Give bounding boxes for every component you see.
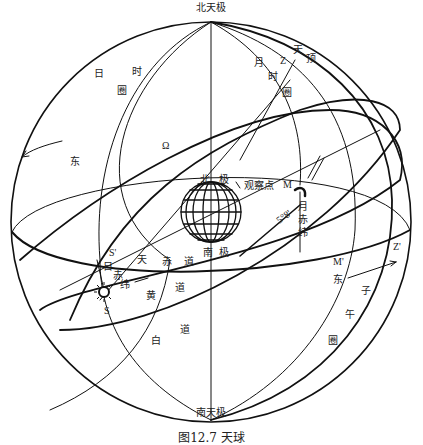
zenith-projection-label: Z' — [393, 242, 401, 252]
earth-north-pole-label-1: 北 — [200, 175, 210, 185]
sun-declination-label-1: 日 — [103, 262, 113, 272]
celestial-equator-label-2: 赤 — [162, 257, 172, 267]
earth-north-pole-label-2: 极 — [219, 175, 229, 185]
east-label-right: 东 — [333, 275, 343, 285]
figure-caption: 图12.7 天球 — [0, 428, 423, 445]
earth-south-pole-label-1: 南 — [203, 248, 213, 258]
meridian-label-2: 午 — [345, 310, 355, 320]
sun-label: S — [104, 306, 110, 316]
lunar-path — [60, 100, 400, 330]
east-label-left: 东 — [70, 157, 80, 167]
sun-hour-circle-label-3: 圈 — [117, 86, 127, 96]
moon-hour-circle-label-3: 圈 — [282, 88, 292, 98]
moon-label: M — [283, 180, 292, 190]
moon-declination-label-2: 赤 — [298, 215, 308, 225]
meridian-label-1: 子 — [361, 286, 371, 296]
east-arrow-left — [22, 141, 62, 157]
north-celestial-pole-label: 北天极 — [196, 3, 226, 13]
lunar-path-label-1: 白 — [151, 336, 161, 346]
earth-south-pole-label-2: 极 — [219, 248, 229, 258]
east-arrow-right — [348, 262, 396, 278]
celestial-equator-label-1: 天 — [137, 255, 147, 265]
observer-label: 观察点 — [244, 181, 274, 191]
moon-projection-label: M' — [333, 257, 344, 267]
celestial-equator-label-3: 道 — [184, 257, 194, 267]
moon-hour-circle-label-1: 月 — [254, 58, 264, 68]
moon-declination-label-3: 纬 — [298, 228, 308, 238]
south-celestial-pole-label: 南天极 — [196, 408, 226, 418]
ecliptic-label-2: 道 — [175, 283, 185, 293]
sun-hour-circle-label-2: 时 — [132, 67, 142, 77]
zenith-label-1: 天 — [293, 45, 303, 55]
sun-hour-circle-label-1: 日 — [94, 69, 104, 79]
meridian-label-3: 圈 — [328, 336, 338, 346]
zenith-label-2: 顶 — [306, 54, 316, 64]
lunar-path-label-2: 道 — [180, 325, 190, 335]
moon-hour-circle-label-2: 时 — [268, 72, 278, 82]
sun-projection-label: S' — [109, 248, 116, 258]
sun-declination-label-3: 纬 — [120, 280, 130, 290]
ascending-node-label: Ω — [162, 141, 169, 151]
moon-declination-label-1: 月 — [298, 202, 308, 212]
ecliptic-label-1: 黄 — [146, 291, 156, 301]
zenith-symbol: Z — [280, 56, 286, 66]
